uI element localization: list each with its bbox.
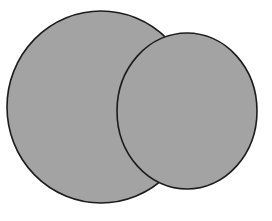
right-circle	[117, 33, 257, 189]
overlapping-circles-figure	[0, 0, 272, 221]
figure-canvas	[0, 0, 272, 221]
